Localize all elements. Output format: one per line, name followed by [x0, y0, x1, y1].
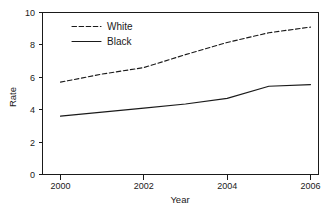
x-tick-label-2002: 2002 [134, 181, 154, 191]
chart-container: 10 8 6 4 2 0 2000 2002 2004 2006 Year Ra [0, 0, 333, 211]
legend-label-black: Black [107, 36, 132, 47]
plot-frame [43, 13, 319, 175]
y-axis-title: Rate [7, 87, 18, 107]
x-tick-label-2006: 2006 [300, 181, 320, 191]
data-series-group [61, 27, 311, 116]
chart-legend: White Black [72, 21, 133, 47]
series-line-black [61, 85, 311, 117]
y-tick-label-10: 10 [25, 8, 35, 18]
legend-item-white: White [72, 21, 133, 32]
y-tick-label-4: 4 [30, 105, 35, 115]
legend-label-white: White [107, 21, 133, 32]
y-tick-label-0: 0 [30, 170, 35, 180]
y-tick-label-8: 8 [30, 40, 35, 50]
x-tick-label-2004: 2004 [217, 181, 237, 191]
y-tick-label-6: 6 [30, 73, 35, 83]
x-axis-title: Year [170, 194, 189, 205]
y-axis-ticks: 10 8 6 4 2 0 [25, 8, 43, 180]
x-axis-ticks: 2000 2002 2004 2006 [50, 175, 320, 192]
legend-item-black: Black [72, 36, 132, 47]
line-chart: 10 8 6 4 2 0 2000 2002 2004 2006 Year Ra [0, 0, 333, 211]
y-tick-label-2: 2 [30, 138, 35, 148]
series-line-white [61, 27, 311, 82]
x-tick-label-2000: 2000 [50, 181, 70, 191]
